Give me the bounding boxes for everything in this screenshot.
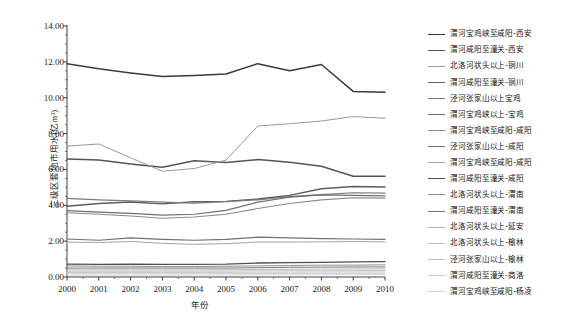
- legend-line-swatch: [428, 194, 445, 195]
- legend-line-swatch: [428, 275, 445, 276]
- legend-line-swatch: [428, 66, 445, 67]
- legend-line-swatch: [428, 178, 445, 179]
- legend-item[interactable]: 泾河张家山以上-榆林: [428, 251, 560, 267]
- legend-line-swatch: [428, 243, 445, 244]
- legend-line-swatch: [428, 98, 445, 99]
- legend-line-swatch: [428, 162, 445, 163]
- series-line: [67, 237, 385, 240]
- legend-item[interactable]: 泾河张家山以上-咸阳: [428, 139, 560, 155]
- legend-item-label: 渭河宝鸡峡以上-宝鸡: [450, 111, 524, 119]
- legend-item[interactable]: 北洛河状头以上-渭南: [428, 187, 560, 203]
- x-tick-label: 2000: [58, 284, 76, 294]
- legend-item[interactable]: 北洛河状头以上-延安: [428, 219, 560, 235]
- series-line: [67, 269, 385, 270]
- legend-item[interactable]: 渭河咸阳至潼关-商洛: [428, 267, 560, 283]
- series-line: [67, 271, 385, 272]
- series-line: [67, 265, 385, 267]
- x-tick-label: 2001: [90, 284, 108, 294]
- legend-item[interactable]: 北洛河状头以上-铜川: [428, 58, 560, 74]
- legend-line-swatch: [428, 211, 445, 212]
- legend: 渭河宝鸡峡至咸阳-西安渭河咸阳至潼关-西安北洛河状头以上-铜川渭河咸阳至潼关-铜…: [428, 26, 560, 300]
- x-axis-tick-labels: 2000200120022003200420052006200720082009…: [0, 284, 400, 298]
- series-line: [67, 262, 385, 265]
- legend-item[interactable]: 渭河咸阳至潼关-西安: [428, 42, 560, 58]
- chart-figure: 三级区套地市用水(亿m³) 14.0012.0010.008.006.004.0…: [0, 0, 563, 318]
- legend-line-swatch: [428, 146, 445, 147]
- legend-item[interactable]: 渭河咸阳至潼关-渭南: [428, 203, 560, 219]
- series-line: [67, 195, 385, 215]
- x-tick-label: 2003: [153, 284, 171, 294]
- legend-item-label: 北洛河状头以上-榆林: [450, 239, 524, 247]
- legend-item[interactable]: 渭河宝鸡峡至咸阳-西安: [428, 26, 560, 42]
- legend-item-label: 北洛河状头以上-渭南: [450, 191, 524, 199]
- series-line: [67, 186, 385, 206]
- x-tick-label: 2006: [249, 284, 267, 294]
- legend-item[interactable]: 渭河咸阳至潼关-铜川: [428, 74, 560, 90]
- legend-line-swatch: [428, 291, 445, 292]
- legend-item-label: 渭河咸阳至潼关-咸阳: [450, 175, 524, 183]
- series-line: [67, 272, 385, 273]
- legend-item-label: 北洛河状头以上-铜川: [450, 62, 524, 70]
- legend-item[interactable]: 渭河宝鸡峡以上-宝鸡: [428, 106, 560, 122]
- legend-line-swatch: [428, 50, 445, 51]
- legend-item[interactable]: 渭河宝鸡峡至咸阳-咸阳: [428, 123, 560, 139]
- series-line: [67, 64, 385, 93]
- legend-item-label: 渭河咸阳至潼关-西安: [450, 46, 524, 54]
- legend-item-label: 渭河咸阳至潼关-铜川: [450, 79, 524, 87]
- legend-item[interactable]: 北洛河状头以上-榆林: [428, 235, 560, 251]
- legend-item-label: 渭河宝鸡峡至咸阳-西安: [450, 30, 531, 38]
- x-tick-label: 2008: [312, 284, 330, 294]
- legend-line-swatch: [428, 34, 445, 35]
- legend-item-label: 渭河咸阳至潼关-渭南: [450, 207, 524, 215]
- legend-item-label: 渭河咸阳至潼关-商洛: [450, 272, 524, 280]
- legend-line-swatch: [428, 82, 445, 83]
- x-tick-label: 2005: [217, 284, 235, 294]
- legend-line-swatch: [428, 259, 445, 260]
- x-tick-label: 2009: [344, 284, 362, 294]
- x-tick-label: 2010: [376, 284, 394, 294]
- legend-item-label: 泾河张家山以上宝鸡: [450, 95, 521, 103]
- legend-item-label: 渭河宝鸡峡至咸阳-咸阳: [450, 127, 531, 135]
- legend-item-label: 北洛河状头以上-延安: [450, 223, 524, 231]
- legend-item-label: 泾河张家山以上-咸阳: [450, 143, 524, 151]
- legend-item-label: 渭河宝鸡峡至咸阳-咸阳: [450, 159, 531, 167]
- x-axis-label: 年份: [0, 298, 400, 310]
- series-line: [67, 275, 385, 276]
- series-line: [67, 193, 385, 203]
- x-tick-label: 2002: [122, 284, 140, 294]
- legend-item[interactable]: 泾河张家山以上宝鸡: [428, 90, 560, 106]
- legend-item[interactable]: 渭河宝鸡峡至咸阳-杨凌: [428, 284, 560, 300]
- legend-line-swatch: [428, 114, 445, 115]
- legend-item-label: 泾河张家山以上-榆林: [450, 256, 524, 264]
- legend-item[interactable]: 渭河咸阳至潼关-咸阳: [428, 171, 560, 187]
- x-tick-label: 2007: [281, 284, 299, 294]
- series-line: [67, 273, 385, 274]
- series-line: [67, 159, 385, 176]
- series-line: [67, 267, 385, 268]
- x-tick-label: 2004: [185, 284, 203, 294]
- series-line: [67, 242, 385, 245]
- legend-line-swatch: [428, 130, 445, 131]
- legend-item[interactable]: 渭河宝鸡峡至咸阳-咸阳: [428, 155, 560, 171]
- legend-line-swatch: [428, 227, 445, 228]
- legend-item-label: 渭河宝鸡峡至咸阳-杨凌: [450, 288, 531, 296]
